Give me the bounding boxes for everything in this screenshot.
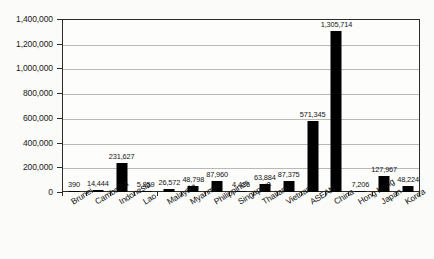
bar-slot: 14,444 xyxy=(86,19,110,192)
y-axis-tick-label: 1,000,000 xyxy=(16,63,53,73)
y-axis-tick-label: 800,000 xyxy=(23,88,53,98)
y-axis: 0200,000400,000600,000800,0001,000,0001,… xyxy=(0,0,62,192)
bars-layer: 39014,444231,6275,85926,57248,79887,9604… xyxy=(62,19,420,192)
bar-value-label: 390 xyxy=(68,180,80,189)
y-axis-tick-label: 1,200,000 xyxy=(16,39,53,49)
x-axis-labels: BruneiCambodiaIndonesiaLaoMalaysiaMyanma… xyxy=(62,196,420,258)
bar-slot: 87,375 xyxy=(277,19,301,192)
bar-slot: 48,798 xyxy=(181,19,205,192)
bar-slot: 26,572 xyxy=(157,19,181,192)
bar-slot: 5,859 xyxy=(134,19,158,192)
bar-slot: 127,967 xyxy=(372,19,396,192)
bar-slot: 63,884 xyxy=(253,19,277,192)
bar-value-label: 87,960 xyxy=(206,170,228,179)
bar-value-label: 7,206 xyxy=(351,180,369,189)
y-axis-tick-label: 0 xyxy=(48,187,53,197)
bar xyxy=(331,31,342,192)
bar-slot: 4,436 xyxy=(229,19,253,192)
bar-value-label: 87,375 xyxy=(278,170,300,179)
bar-value-label: 571,345 xyxy=(300,110,326,119)
bar-slot: 390 xyxy=(62,19,86,192)
bar-slot: 87,960 xyxy=(205,19,229,192)
bar-slot: 231,627 xyxy=(110,19,134,192)
y-axis-tick-label: 200,000 xyxy=(23,162,53,172)
y-axis-tick-label: 600,000 xyxy=(23,113,53,123)
bar-value-label: 231,627 xyxy=(109,152,135,161)
bar-value-label: 26,572 xyxy=(159,178,181,187)
bar-slot: 1,305,714 xyxy=(325,19,349,192)
bar-value-label: 48,224 xyxy=(397,175,419,184)
bar-slot: 48,224 xyxy=(396,19,420,192)
bar-slot: 571,345 xyxy=(301,19,325,192)
y-axis-tick-label: 400,000 xyxy=(23,138,53,148)
bar-chart: 0200,000400,000600,000800,0001,000,0001,… xyxy=(0,0,434,259)
bar-value-label: 127,967 xyxy=(371,165,397,174)
y-axis-tick-label: 1,400,000 xyxy=(16,14,53,24)
bar-slot: 7,206 xyxy=(348,19,372,192)
